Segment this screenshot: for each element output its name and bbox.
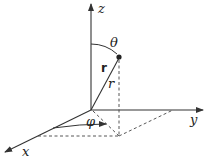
- point-p: [116, 54, 121, 59]
- phi-label: φ: [86, 114, 96, 129]
- z-axis-label: z: [97, 1, 105, 16]
- y-axis-label: y: [189, 112, 198, 127]
- theta-label: θ: [110, 35, 118, 50]
- x-axis-label: x: [22, 144, 30, 159]
- r-magnitude-label: r: [108, 76, 115, 91]
- spherical-coordinates-diagram: z y x θ φ r r: [0, 0, 207, 162]
- r-vector-label: r: [101, 61, 107, 75]
- x-axis: [5, 110, 91, 152]
